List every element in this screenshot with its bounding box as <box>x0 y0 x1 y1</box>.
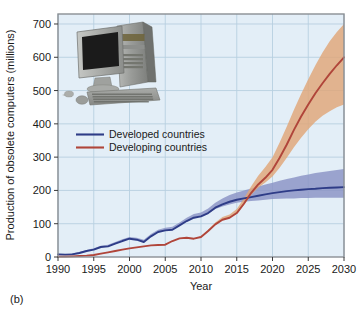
x-tick-label: 2000 <box>117 263 141 275</box>
y-tick-label: 300 <box>33 151 51 163</box>
x-tick-label: 2005 <box>153 263 177 275</box>
y-tick-label: 200 <box>33 184 51 196</box>
y-tick-label: 700 <box>33 18 51 30</box>
y-tick-label: 500 <box>33 85 51 97</box>
legend-label-developed: Developed countries <box>109 128 205 140</box>
x-tick-label: 1995 <box>82 263 106 275</box>
y-tick-label: 400 <box>33 118 51 130</box>
figure-panel-b: 1990199520002005201020152020202520300100… <box>0 0 364 316</box>
x-tick-label: 2025 <box>296 263 320 275</box>
y-tick-label: 0 <box>45 251 51 263</box>
y-tick-label: 100 <box>33 218 51 230</box>
x-tick-label: 2015 <box>225 263 249 275</box>
y-tick-label: 600 <box>33 51 51 63</box>
x-tick-label: 1990 <box>46 263 70 275</box>
panel-label: (b) <box>10 293 23 305</box>
legend-label-developing: Developing countries <box>109 141 207 153</box>
x-tick-label: 2010 <box>189 263 213 275</box>
obsolete-computers-chart: 1990199520002005201020152020202520300100… <box>0 0 364 316</box>
y-axis-title: Production of obsolete computers (millio… <box>4 30 16 241</box>
x-axis-title: Year <box>190 280 213 292</box>
x-tick-label: 2020 <box>260 263 284 275</box>
x-tick-label: 2030 <box>332 263 356 275</box>
